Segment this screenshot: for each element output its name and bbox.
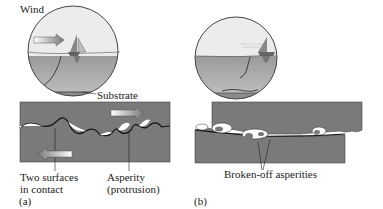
- asperity-label-line1: Asperity: [107, 171, 145, 183]
- broken-asperities-label: Broken-off asperities: [224, 168, 317, 180]
- panel-a-surfaces: [20, 102, 170, 171]
- panel-b-tag: (b): [194, 195, 207, 207]
- panel-b-surfaces: [195, 102, 362, 170]
- contact-label-line1: Two surfaces: [20, 171, 78, 183]
- contact-label-line2: in contact: [20, 183, 63, 195]
- wind-label: Wind: [20, 3, 44, 15]
- panel-a-magnifier: [25, 5, 125, 102]
- asperity-label-line2: (protrusion): [107, 183, 160, 195]
- panel-b-magnifier: [190, 15, 285, 103]
- panel-a-tag: (a): [19, 195, 31, 207]
- boat-hull-icon: [68, 52, 80, 56]
- substrate-label: Substrate: [97, 89, 138, 101]
